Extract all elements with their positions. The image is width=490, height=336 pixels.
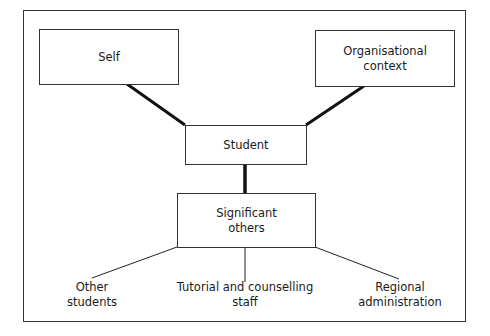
node-self: Self xyxy=(39,29,179,85)
leaf-other-students: Other students xyxy=(52,280,132,310)
edge-significant-other-students xyxy=(92,247,177,278)
node-significant-others: Significant others xyxy=(177,193,316,248)
edge-org-student xyxy=(306,86,364,125)
edge-self-student xyxy=(127,84,185,125)
leaf-regional-administration: Regional administration xyxy=(350,280,450,310)
leaf-tutorial-staff: Tutorial and counselling staff xyxy=(170,280,320,310)
node-significant-others-label: Significant others xyxy=(216,206,277,236)
node-organisational-context: Organisational context xyxy=(315,30,455,87)
edge-significant-regional xyxy=(315,247,399,279)
node-student-label: Student xyxy=(223,138,268,153)
node-self-label: Self xyxy=(98,50,120,65)
node-organisational-context-label: Organisational context xyxy=(343,44,427,74)
node-student: Student xyxy=(185,125,307,165)
